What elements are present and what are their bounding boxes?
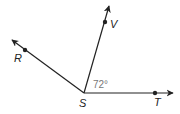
- point-label-v: V: [110, 18, 119, 30]
- point-label-t: T: [154, 96, 162, 108]
- angle-measure-label: 72°: [93, 79, 108, 90]
- point-v: [103, 20, 107, 24]
- ray-SR: [12, 40, 84, 93]
- point-t: [153, 91, 157, 95]
- vertex-label-s: S: [79, 97, 87, 109]
- angle-diagram: RVT S 72°: [0, 0, 180, 114]
- point-label-r: R: [14, 52, 22, 64]
- point-r: [23, 48, 27, 52]
